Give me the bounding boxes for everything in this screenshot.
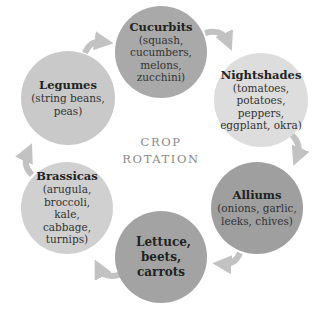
node-brassicas: Brassicas (arugula, broccoli, kale, cabb… <box>21 162 113 254</box>
node-description: (squash, cucumbers, melons, zucchini) <box>128 34 194 84</box>
node-nightshades: Nightshades (tomatoes, potatoes, peppers… <box>214 53 308 147</box>
arrow-alliums-to-lettuce <box>222 253 240 264</box>
node-lettuce-beets-carrots: Lettuce, beets, carrots <box>115 211 207 303</box>
node-title: Lettuce, beets, carrots <box>136 235 186 280</box>
node-description: (arugula, broccoli, kale, cabbage, turni… <box>32 183 102 246</box>
node-title: Alliums <box>232 189 281 202</box>
arrow-cucurbits-to-nightshades <box>205 32 228 42</box>
node-legumes: Legumes (string beans, peas) <box>21 51 115 145</box>
node-title: Brassicas <box>36 170 97 183</box>
diagram-title: CROP ROTATION <box>120 134 202 168</box>
arrow-nightshades-to-alliums <box>292 135 299 157</box>
node-title: Cucurbits <box>129 21 192 34</box>
node-description: (tomatoes, potatoes, peppers, eggplant, … <box>215 82 307 132</box>
arrow-brassicas-to-legumes <box>26 152 32 175</box>
arrow-legumes-to-cucurbits <box>85 42 104 53</box>
node-title: Legumes <box>39 79 97 92</box>
node-alliums: Alliums (onions, garlic, leeks, chives) <box>211 162 303 254</box>
node-cucurbits: Cucurbits (squash, cucumbers, melons, zu… <box>115 6 207 98</box>
node-description: (string beans, peas) <box>30 92 106 117</box>
node-title: Nightshades <box>221 69 302 82</box>
node-description: (onions, garlic, leeks, chives) <box>217 202 297 227</box>
diagram-title-line2: ROTATION <box>120 151 202 168</box>
diagram-title-line1: CROP <box>120 134 202 151</box>
